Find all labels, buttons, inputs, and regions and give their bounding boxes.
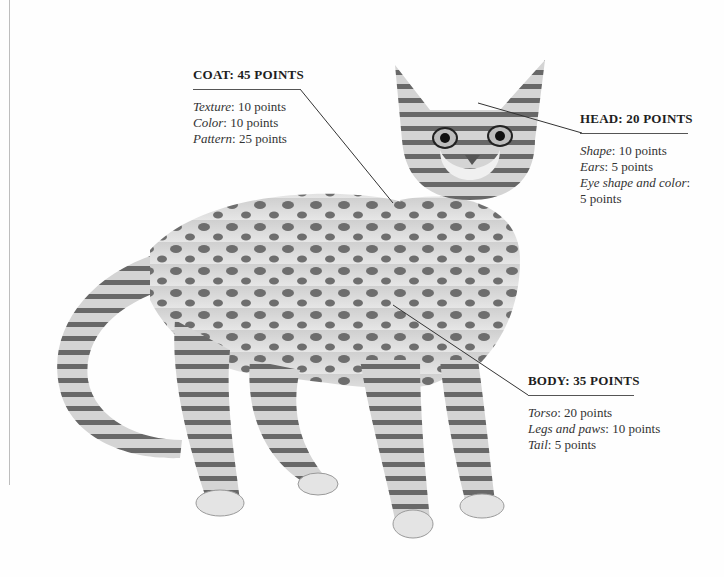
body-item-legs: Legs and paws: 10 points — [528, 421, 634, 437]
head-item-eye: Eye shape and color: — [580, 175, 688, 191]
leader-lines — [0, 0, 724, 577]
coat-title: COAT: 45 POINTS — [193, 67, 301, 83]
body-title-underline — [528, 395, 634, 396]
body-callout: BODY: 35 POINTS Torso: 20 points Legs an… — [528, 373, 634, 453]
diagram-canvas: COAT: 45 POINTS Texture: 10 points Color… — [0, 0, 724, 577]
coat-item-texture: Texture: 10 points — [193, 99, 301, 115]
coat-title-underline — [193, 89, 301, 90]
head-title: HEAD: 20 POINTS — [580, 111, 688, 127]
coat-leader-line — [300, 89, 393, 203]
head-callout: HEAD: 20 POINTS Shape: 10 points Ears: 5… — [580, 111, 688, 207]
coat-callout: COAT: 45 POINTS Texture: 10 points Color… — [193, 67, 301, 147]
body-leader-line — [393, 305, 528, 395]
head-item-shape: Shape: 10 points — [580, 143, 688, 159]
body-item-tail: Tail: 5 points — [528, 437, 634, 453]
coat-item-pattern: Pattern: 25 points — [193, 131, 301, 147]
head-item-ears: Ears: 5 points — [580, 159, 688, 175]
coat-item-color: Color: 10 points — [193, 115, 301, 131]
body-title: BODY: 35 POINTS — [528, 373, 634, 389]
body-item-torso: Torso: 20 points — [528, 405, 634, 421]
head-title-underline — [580, 133, 688, 134]
head-leader-line — [478, 103, 582, 133]
head-item-eye-value: 5 points — [580, 191, 688, 207]
